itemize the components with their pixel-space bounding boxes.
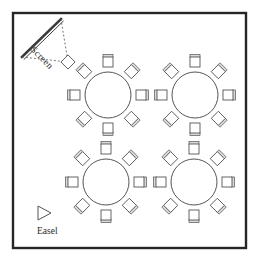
chair — [190, 55, 200, 68]
chair — [154, 177, 167, 187]
table-bottom-left — [66, 142, 147, 223]
floor-plan-diagram: Screen Easel — [0, 0, 258, 262]
chair — [189, 142, 199, 155]
chair — [66, 177, 79, 187]
chair — [103, 55, 113, 68]
chair — [222, 177, 235, 187]
table-bottom-right — [154, 142, 235, 223]
chair — [101, 142, 111, 155]
table-top-right — [155, 55, 236, 136]
chair — [103, 123, 113, 136]
table-top — [83, 159, 129, 205]
chair — [68, 90, 81, 100]
chair — [155, 90, 168, 100]
chair — [190, 123, 200, 136]
floor-plan-canvas: Screen Easel — [0, 0, 258, 262]
chair — [189, 210, 199, 223]
chair — [101, 210, 111, 223]
chair — [136, 90, 149, 100]
table-top — [171, 159, 217, 205]
table-top — [172, 72, 218, 118]
table-top — [85, 72, 131, 118]
chair — [223, 90, 236, 100]
easel-label: Easel — [37, 226, 58, 236]
table-top-left — [68, 55, 149, 136]
chair — [134, 177, 147, 187]
